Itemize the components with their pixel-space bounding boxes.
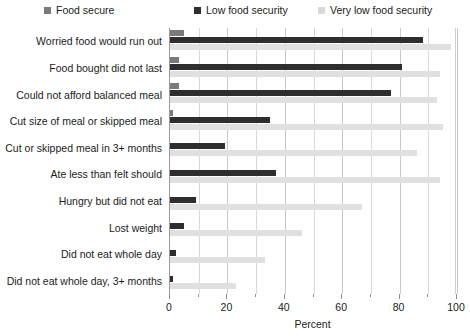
- x-axis-major-tick: [284, 294, 285, 299]
- x-axis-tick-label: 20: [221, 301, 233, 313]
- y-axis-tick-label: Cut size of meal or skipped meal: [10, 115, 162, 127]
- x-axis-tick-label: 60: [335, 301, 347, 313]
- bar-group: [170, 188, 456, 215]
- bar: [170, 170, 276, 176]
- y-axis-tick-label: Did not eat whole day, 3+ months: [7, 275, 162, 287]
- bar-group: [170, 55, 456, 82]
- bar-group: [170, 134, 456, 161]
- x-axis-major-tick: [399, 294, 400, 299]
- x-axis-minor-tick: [198, 294, 199, 297]
- legend-label: Food secure: [56, 4, 114, 16]
- bar: [170, 64, 402, 70]
- y-axis-tick-label: Food bought did not last: [49, 62, 162, 74]
- bar: [170, 71, 440, 77]
- bar: [170, 57, 179, 63]
- bar-group: [170, 267, 456, 294]
- bar: [170, 250, 176, 256]
- bar-group: [170, 241, 456, 268]
- bar-group: [170, 28, 456, 55]
- y-axis-tick-label: Cut or skipped meal in 3+ months: [5, 142, 162, 154]
- x-axis-minor-tick: [427, 294, 428, 297]
- legend-label: Very low food security: [330, 4, 432, 16]
- legend-item-very-low-food-security[interactable]: Very low food security: [318, 4, 432, 16]
- plot-area: [169, 28, 456, 294]
- bar: [170, 230, 302, 236]
- y-axis-tick-label: Ate less than felt should: [51, 168, 163, 180]
- x-axis-major-tick: [456, 294, 457, 299]
- x-axis-major-tick: [169, 294, 170, 299]
- bar: [170, 117, 270, 123]
- bar: [170, 197, 196, 203]
- bar: [170, 257, 265, 263]
- x-axis-minor-tick: [255, 294, 256, 297]
- bar: [170, 44, 451, 50]
- y-axis-category-labels: Worried food would run outFood bought di…: [0, 28, 166, 294]
- y-axis-tick-label: Lost weight: [109, 222, 162, 234]
- bar: [170, 223, 184, 229]
- legend-item-food-secure[interactable]: Food secure: [44, 4, 114, 16]
- bar: [170, 204, 362, 210]
- bar-chart: Food secure Low food security Very low f…: [0, 0, 470, 336]
- x-axis-title: Percent: [169, 318, 456, 330]
- legend-label: Low food security: [206, 4, 288, 16]
- bar-group: [170, 108, 456, 135]
- bar-group: [170, 161, 456, 188]
- bar: [170, 37, 423, 43]
- x-axis-tick-label: 80: [393, 301, 405, 313]
- legend-item-low-food-security[interactable]: Low food security: [194, 4, 288, 16]
- bar: [170, 276, 173, 282]
- bar: [170, 143, 225, 149]
- bar: [170, 177, 440, 183]
- bar-rows: [170, 28, 456, 294]
- legend-swatch-icon: [318, 7, 325, 14]
- bar: [170, 124, 443, 130]
- x-axis-minor-tick: [313, 294, 314, 297]
- legend-swatch-icon: [44, 7, 51, 14]
- y-axis-tick-label: Could not afford balanced meal: [16, 89, 162, 101]
- x-axis-major-tick: [226, 294, 227, 299]
- bar: [170, 283, 236, 289]
- y-axis-tick-label: Did not eat whole day: [61, 248, 162, 260]
- y-axis-tick-label: Hungry but did not eat: [59, 195, 162, 207]
- x-axis-tick-label: 100: [447, 301, 465, 313]
- bar: [170, 97, 437, 103]
- gridline-major: [457, 28, 458, 294]
- chart-legend: Food secure Low food security Very low f…: [0, 0, 470, 26]
- x-axis-tick-label: 40: [278, 301, 290, 313]
- x-axis-major-tick: [341, 294, 342, 299]
- x-axis-tick-label: 0: [166, 301, 172, 313]
- bar-group: [170, 81, 456, 108]
- legend-swatch-icon: [194, 7, 201, 14]
- bar: [170, 30, 184, 36]
- bar: [170, 150, 417, 156]
- bar: [170, 90, 391, 96]
- y-axis-tick-label: Worried food would run out: [36, 35, 162, 47]
- bar-group: [170, 214, 456, 241]
- bar: [170, 83, 179, 89]
- x-axis-minor-tick: [370, 294, 371, 297]
- bar: [170, 110, 173, 116]
- x-axis: Percent 020406080100: [169, 294, 456, 336]
